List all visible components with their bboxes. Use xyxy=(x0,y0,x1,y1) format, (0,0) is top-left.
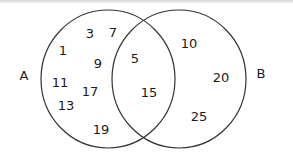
intersection-value: 5 xyxy=(131,52,139,65)
set-label-a: A xyxy=(20,69,29,82)
a-only-value: 3 xyxy=(86,27,94,40)
a-only-value: 11 xyxy=(52,76,69,89)
b-only-value: 20 xyxy=(213,71,230,84)
a-only-value: 19 xyxy=(93,123,110,136)
venn-diagram: A B 3 7 1 9 11 17 13 19 5 15 10 20 25 xyxy=(0,0,293,162)
a-only-value: 7 xyxy=(109,26,117,39)
b-only-value: 10 xyxy=(181,37,198,50)
intersection-value: 15 xyxy=(141,86,158,99)
a-only-value: 13 xyxy=(58,99,75,112)
a-only-value: 17 xyxy=(82,85,99,98)
a-only-value: 9 xyxy=(94,57,102,70)
a-only-value: 1 xyxy=(59,44,67,57)
b-only-value: 25 xyxy=(191,110,208,123)
venn-circles xyxy=(0,0,293,162)
set-label-b: B xyxy=(257,67,266,80)
